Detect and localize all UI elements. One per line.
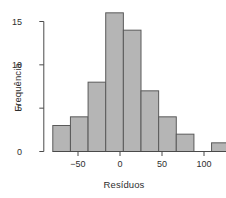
histogram-bar <box>106 13 124 152</box>
plot-area <box>0 0 226 198</box>
histogram-bar <box>141 91 159 152</box>
histogram-bar <box>123 30 141 151</box>
x-axis-tick-label: 0 <box>117 159 122 169</box>
x-axis-tick-label: −50 <box>70 159 85 169</box>
histogram-bar <box>88 82 106 151</box>
histogram-figure: −50050100 051015 Resíduos Frequência <box>0 0 226 198</box>
histogram-bar <box>212 143 226 152</box>
histogram-bar <box>70 117 88 152</box>
histogram-bar <box>53 126 71 152</box>
y-axis-tick-label: 0 <box>17 147 22 157</box>
histogram-bar <box>176 134 194 151</box>
x-axis-tick-label: 50 <box>157 159 167 169</box>
y-axis-title: Frequência <box>12 43 23 133</box>
y-axis-tick-label: 15 <box>12 17 22 27</box>
histogram-svg <box>0 0 226 198</box>
histogram-bar <box>159 117 177 152</box>
bars-group <box>53 13 226 152</box>
x-axis-title: Resíduos <box>22 179 226 190</box>
x-axis-tick-label: 100 <box>196 159 211 169</box>
